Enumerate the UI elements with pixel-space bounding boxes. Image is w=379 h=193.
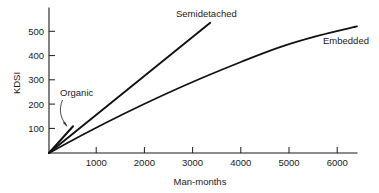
y-tick-label-200: 200	[28, 99, 44, 110]
x-tick-label-6000: 6000	[327, 157, 348, 168]
x-tick-label-3000: 3000	[182, 157, 203, 168]
cocomo-effort-chart: 500 400 300 200 100 1000 2000 3000 4000 …	[0, 0, 379, 193]
series-label-organic: Organic	[60, 87, 94, 98]
x-tick-labels: 1000 2000 3000 4000 5000 6000	[86, 157, 348, 168]
y-tick-label-500: 500	[28, 26, 44, 37]
y-tick-label-300: 300	[28, 74, 44, 85]
organic-leader-arrow	[60, 100, 66, 126]
y-tick-labels: 500 400 300 200 100	[28, 26, 44, 134]
y-tick-label-400: 400	[28, 50, 44, 61]
x-tick-label-2000: 2000	[134, 157, 155, 168]
x-tick-group	[96, 147, 337, 153]
chart-figure: 500 400 300 200 100 1000 2000 3000 4000 …	[0, 0, 379, 193]
series-curve-embedded	[49, 26, 357, 153]
y-tick-label-100: 100	[28, 123, 44, 134]
x-axis-title: Man-months	[174, 176, 227, 187]
y-tick-group	[49, 31, 55, 128]
series-label-semidetached: Semidetached	[176, 8, 237, 19]
series-label-embedded: Embedded	[323, 35, 369, 46]
y-axis-title: KDSI	[11, 72, 22, 94]
x-tick-label-4000: 4000	[230, 157, 251, 168]
x-tick-label-1000: 1000	[86, 157, 107, 168]
organic-arrowhead	[63, 122, 67, 126]
series-group	[49, 23, 357, 153]
x-tick-label-5000: 5000	[278, 157, 299, 168]
